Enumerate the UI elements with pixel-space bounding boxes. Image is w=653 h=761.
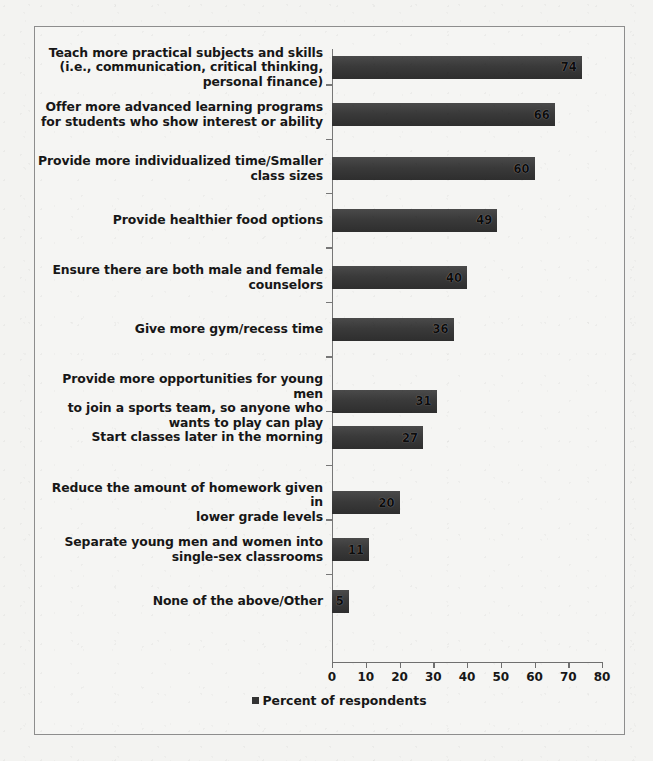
category-label: Ensure there are both male and female co… — [35, 263, 332, 292]
bar[interactable]: 74 — [332, 56, 582, 79]
bar-row: Provide healthier food options49 — [35, 209, 626, 232]
bar-value-label: 49 — [476, 213, 497, 227]
bar-row: Give more gym/recess time36 — [35, 318, 626, 341]
bar-track: 60 — [332, 157, 626, 180]
x-axis-tick — [467, 662, 468, 668]
bar-track: 49 — [332, 209, 626, 232]
bar[interactable]: 60 — [332, 157, 535, 180]
y-axis-tick — [326, 465, 332, 466]
category-label: None of the above/Other — [35, 594, 332, 609]
bar-value-label: 20 — [378, 496, 399, 510]
bar-row: Separate young men and women into single… — [35, 535, 626, 564]
square-marker-icon — [252, 697, 259, 704]
category-label: Teach more practical subjects and skills… — [35, 46, 332, 90]
bar[interactable]: 36 — [332, 318, 454, 341]
y-axis-tick — [326, 519, 332, 520]
x-axis-tick-label: 70 — [560, 670, 577, 684]
bar-value-label: 31 — [416, 394, 437, 408]
y-axis-tick — [326, 193, 332, 194]
chart-legend: Percent of respondents — [35, 693, 626, 708]
category-label: Separate young men and women into single… — [35, 535, 332, 564]
bar-track: 11 — [332, 538, 626, 561]
bar-row: Reduce the amount of homework given in l… — [35, 481, 626, 525]
bar-row: Ensure there are both male and female co… — [35, 263, 626, 292]
category-label: Provide healthier food options — [35, 213, 332, 228]
bar[interactable]: 31 — [332, 390, 437, 413]
bar-row: Start classes later in the morning27 — [35, 426, 626, 449]
bar-track: 31 — [332, 390, 626, 413]
legend-label: Percent of respondents — [262, 693, 426, 708]
bar-value-label: 5 — [336, 594, 349, 608]
x-axis-tick — [568, 662, 569, 668]
x-axis-tick-label: 30 — [425, 670, 442, 684]
x-axis-tick — [535, 662, 536, 668]
bar-value-label: 66 — [534, 108, 555, 122]
bar-row: Teach more practical subjects and skills… — [35, 46, 626, 90]
bar-track: 36 — [332, 318, 626, 341]
plot-area: Teach more practical subjects and skills… — [35, 27, 626, 736]
x-axis-tick — [332, 662, 333, 668]
bar[interactable]: 40 — [332, 266, 467, 289]
y-axis-tick — [326, 247, 332, 248]
bar-row: Provide more individualized time/Smaller… — [35, 154, 626, 183]
x-axis-tick-label: 80 — [594, 670, 611, 684]
bar[interactable]: 66 — [332, 103, 555, 126]
bar[interactable]: 5 — [332, 590, 349, 613]
bar-track: 40 — [332, 266, 626, 289]
bar-value-label: 74 — [561, 60, 582, 74]
x-axis-tick-label: 20 — [391, 670, 408, 684]
x-axis-tick — [366, 662, 367, 668]
y-axis-tick — [326, 139, 332, 140]
bar[interactable]: 49 — [332, 209, 497, 232]
category-label: Reduce the amount of homework given in l… — [35, 481, 332, 525]
bar-value-label: 36 — [432, 322, 453, 336]
bar-track: 27 — [332, 426, 626, 449]
bar-track: 66 — [332, 103, 626, 126]
x-axis-tick-label: 40 — [459, 670, 476, 684]
bar-value-label: 27 — [402, 431, 423, 445]
x-axis-tick-label: 10 — [357, 670, 374, 684]
category-label: Offer more advanced learning programs fo… — [35, 100, 332, 129]
bar-value-label: 40 — [446, 271, 467, 285]
bar-row: None of the above/Other5 — [35, 590, 626, 613]
bar-row: Provide more opportunities for young men… — [35, 372, 626, 431]
x-axis-tick — [400, 662, 401, 668]
y-axis-tick — [326, 574, 332, 575]
y-axis-tick — [326, 302, 332, 303]
y-axis-tick — [326, 356, 332, 357]
x-axis-tick — [433, 662, 434, 668]
bar-value-label: 11 — [348, 543, 369, 557]
category-label: Start classes later in the morning — [35, 430, 332, 445]
category-label: Provide more individualized time/Smaller… — [35, 154, 332, 183]
chart-frame: Teach more practical subjects and skills… — [34, 26, 625, 735]
x-axis-tick — [602, 662, 603, 668]
y-axis-tick — [326, 411, 332, 412]
x-axis-tick-label: 0 — [328, 670, 336, 684]
bar[interactable]: 11 — [332, 538, 369, 561]
category-label: Provide more opportunities for young men… — [35, 372, 332, 431]
bar-row: Offer more advanced learning programs fo… — [35, 100, 626, 129]
x-axis-tick-label: 60 — [526, 670, 543, 684]
bar-track: 74 — [332, 56, 626, 79]
y-axis-tick — [326, 84, 332, 85]
x-axis-tick — [501, 662, 502, 668]
category-label: Give more gym/recess time — [35, 322, 332, 337]
bar-track: 20 — [332, 491, 626, 514]
y-axis-line — [332, 49, 333, 662]
bar-value-label: 60 — [513, 162, 534, 176]
bar[interactable]: 20 — [332, 491, 400, 514]
x-axis-tick-label: 50 — [492, 670, 509, 684]
bar-track: 5 — [332, 590, 626, 613]
bar[interactable]: 27 — [332, 426, 423, 449]
